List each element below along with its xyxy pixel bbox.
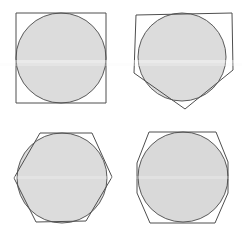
inscribed-circle-octagon <box>138 132 228 222</box>
inscribed-circle-pentagon <box>138 13 226 101</box>
inscribed-circle-square <box>16 13 106 103</box>
figure-canvas <box>0 0 242 235</box>
inscribed-circle-hexagon <box>17 133 107 223</box>
panel-square <box>16 13 106 103</box>
geometry-figure <box>0 0 242 235</box>
